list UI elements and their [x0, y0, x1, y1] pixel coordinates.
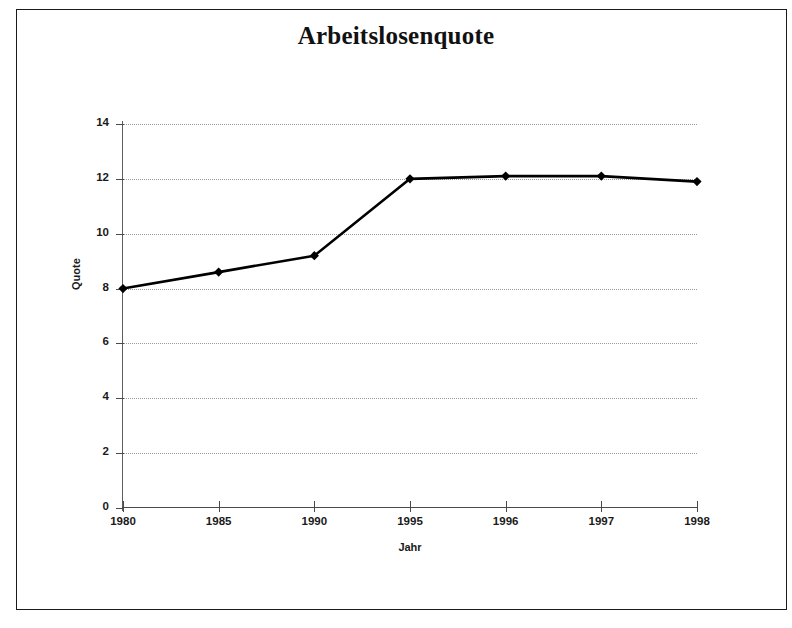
y-axis-tick: [116, 289, 124, 290]
x-axis-tick-label: 1985: [184, 515, 254, 527]
y-axis-tick: [116, 124, 124, 125]
chart-title: Arbeitslosenquote: [0, 22, 792, 50]
x-axis-tick-label: 1995: [375, 515, 445, 527]
chart-page: Arbeitslosenquote 02468101214 1980198519…: [0, 0, 792, 628]
y-axis-tick-label: 0: [69, 500, 109, 512]
y-axis-tick: [116, 398, 124, 399]
y-axis-tick-label: 2: [69, 445, 109, 457]
x-axis-tick-label: 1990: [279, 515, 349, 527]
x-axis-tick-label: 1996: [471, 515, 541, 527]
y-axis-tick-label: 10: [69, 226, 109, 238]
x-axis-tick: [219, 501, 220, 512]
gridline: [123, 124, 697, 125]
y-axis-tick-label: 6: [69, 335, 109, 347]
x-axis-tick: [410, 501, 411, 512]
y-axis-title: Quote: [70, 258, 82, 290]
y-axis-tick: [116, 234, 124, 235]
gridline: [123, 289, 697, 290]
gridline: [123, 179, 697, 180]
gridline: [123, 398, 697, 399]
plot-area: [123, 124, 697, 508]
x-axis-tick: [601, 501, 602, 512]
x-axis-tick: [506, 501, 507, 512]
x-axis-tick: [123, 501, 124, 512]
gridline: [123, 453, 697, 454]
gridline: [123, 343, 697, 344]
x-axis-tick-label: 1997: [566, 515, 636, 527]
x-axis-tick: [697, 501, 698, 512]
y-axis-tick-label: 14: [69, 116, 109, 128]
y-axis-tick-label: 4: [69, 390, 109, 402]
x-axis-tick: [314, 501, 315, 512]
y-axis-tick: [116, 453, 124, 454]
gridline: [123, 234, 697, 235]
x-axis-title: Jahr: [123, 541, 697, 553]
y-axis-tick-label: 12: [69, 171, 109, 183]
y-axis-tick: [116, 179, 124, 180]
x-axis-tick-label: 1980: [88, 515, 158, 527]
y-axis-tick: [116, 343, 124, 344]
x-axis-tick-label: 1998: [662, 515, 732, 527]
